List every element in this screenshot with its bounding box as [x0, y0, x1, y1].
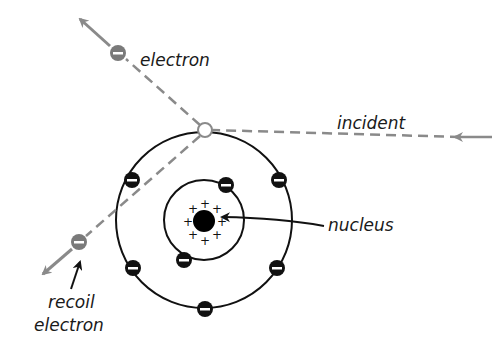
electron-arrow-icon — [80, 19, 110, 46]
incident-label: incident — [337, 113, 407, 133]
compton-scattering-diagram: + + + + + + + + electron incident nucleu… — [0, 0, 501, 357]
svg-text:+: + — [200, 197, 210, 211]
svg-text:+: + — [183, 215, 193, 229]
outer-electron — [124, 172, 140, 188]
recoil-arrow-icon — [43, 249, 72, 274]
svg-text:+: + — [188, 202, 198, 216]
outer-electron — [269, 260, 285, 276]
outer-electron — [125, 260, 141, 276]
svg-text:+: + — [200, 234, 210, 248]
recoil-label-line2: electron — [34, 315, 104, 335]
nucleus-label: nucleus — [328, 215, 394, 235]
recoil-electron — [71, 234, 87, 250]
scatter-point — [198, 123, 212, 137]
svg-text:+: + — [212, 228, 222, 242]
recoil-pointer-icon — [71, 262, 80, 289]
inner-electron — [218, 177, 234, 193]
scattered-electron — [110, 45, 126, 61]
nucleus-pointer-icon — [222, 217, 324, 226]
outer-electron — [197, 301, 213, 317]
electron-label: electron — [140, 50, 210, 70]
svg-text:+: + — [212, 202, 222, 216]
inner-electron — [176, 252, 192, 268]
recoil-label-line1: recoil — [48, 292, 95, 312]
svg-text:+: + — [188, 228, 198, 242]
outer-electron — [271, 172, 287, 188]
incident-ray — [212, 130, 460, 137]
